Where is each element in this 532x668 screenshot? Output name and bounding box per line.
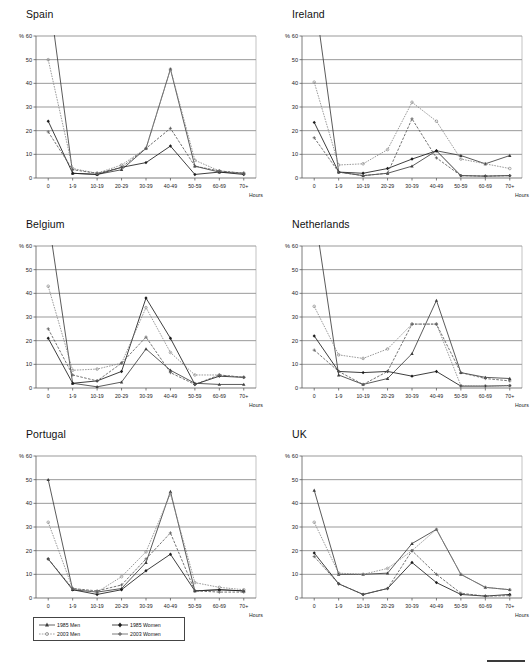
svg-text:50: 50 [26,57,32,63]
svg-text:70+: 70+ [505,393,514,399]
svg-text:0: 0 [47,183,50,189]
svg-text:20-29: 20-29 [381,603,394,609]
svg-text:70+: 70+ [505,183,514,189]
svg-text:10-19: 10-19 [356,393,369,399]
svg-text:Hours: Hours [249,612,263,618]
svg-text:%: % [285,243,290,249]
svg-text:0: 0 [29,385,32,391]
plot-area: 010203040506001-910-1920-2930-3940-4950-… [0,0,266,210]
svg-text:10: 10 [26,571,32,577]
svg-text:60-69: 60-69 [213,393,226,399]
footer-rule [487,660,525,662]
svg-text:50: 50 [292,267,298,273]
legend-marker-circle-icon [39,631,55,637]
svg-text:%: % [19,33,24,39]
svg-text:40-49: 40-49 [430,393,443,399]
svg-text:1-9: 1-9 [335,603,343,609]
svg-text:1-9: 1-9 [69,603,77,609]
svg-text:%: % [285,453,290,459]
svg-text:0: 0 [295,595,298,601]
svg-text:10: 10 [292,571,298,577]
svg-text:0: 0 [295,175,298,181]
svg-text:60: 60 [292,33,298,39]
svg-text:60: 60 [26,243,32,249]
svg-text:10: 10 [292,151,298,157]
legend-label-2003-men: 2003 Men [57,631,80,637]
series-markers [313,81,511,170]
plot-area: 010203040506001-910-1920-2930-3940-4950-… [0,420,266,630]
svg-text:20-29: 20-29 [381,393,394,399]
series-markers [47,58,245,174]
svg-text:40: 40 [292,290,298,296]
svg-text:30-39: 30-39 [139,603,152,609]
svg-text:40-49: 40-49 [430,183,443,189]
svg-text:20-29: 20-29 [381,183,394,189]
plot-area: 010203040506001-910-1920-2930-3940-4950-… [266,0,532,210]
chart-panel-portugal: Portugal010203040506001-910-1920-2930-39… [0,420,266,630]
series-markers [47,478,246,594]
svg-text:50-59: 50-59 [454,393,467,399]
svg-text:50: 50 [292,57,298,63]
legend-item-1985-men: 1985 Men [39,622,80,628]
svg-text:1-9: 1-9 [69,183,77,189]
svg-text:40: 40 [292,500,298,506]
svg-text:1-9: 1-9 [335,393,343,399]
svg-text:40-49: 40-49 [430,603,443,609]
svg-text:40-49: 40-49 [164,183,177,189]
svg-text:Hours: Hours [515,612,529,618]
legend-item-2003-men: 2003 Men [39,631,80,637]
svg-text:50-59: 50-59 [454,603,467,609]
svg-text:20: 20 [26,128,32,134]
series-markers [47,493,245,594]
series-markers [313,121,512,178]
svg-text:30: 30 [26,104,32,110]
series-line [314,522,510,589]
svg-text:60-69: 60-69 [479,183,492,189]
svg-text:50-59: 50-59 [188,183,201,189]
series-line [314,490,510,589]
series-markers [313,117,512,177]
svg-text:30-39: 30-39 [139,393,152,399]
svg-text:20: 20 [292,338,298,344]
svg-text:10: 10 [26,361,32,367]
svg-text:60-69: 60-69 [213,183,226,189]
series-line [48,60,244,174]
svg-text:30-39: 30-39 [405,183,418,189]
svg-text:60-69: 60-69 [479,603,492,609]
svg-text:70+: 70+ [505,603,514,609]
legend-marker-triangle-icon [39,622,55,628]
svg-text:20-29: 20-29 [115,603,128,609]
svg-text:40: 40 [26,500,32,506]
svg-text:70+: 70+ [239,603,248,609]
svg-text:0: 0 [313,603,316,609]
series-line [48,494,244,592]
series-markers [47,127,246,175]
svg-text:30: 30 [26,314,32,320]
svg-text:30: 30 [292,524,298,530]
svg-text:60: 60 [26,33,32,39]
series-line [314,211,510,385]
svg-text:10: 10 [26,151,32,157]
series-line [314,336,510,386]
svg-text:20: 20 [292,128,298,134]
svg-text:60: 60 [292,453,298,459]
svg-text:40-49: 40-49 [164,393,177,399]
series-line [314,82,510,168]
svg-text:Hours: Hours [249,402,263,408]
svg-text:%: % [285,33,290,39]
svg-text:50: 50 [26,267,32,273]
legend-label-1985-women: 1985 Women [130,622,161,628]
svg-text:0: 0 [313,393,316,399]
svg-text:30: 30 [26,524,32,530]
svg-text:10: 10 [292,361,298,367]
chart-panel-uk: UK010203040506001-910-1920-2930-3940-495… [266,420,532,630]
svg-text:0: 0 [47,393,50,399]
series-legend: 1985 Men 1985 Women 2003 Men [33,617,185,641]
chart-panel-spain: Spain010203040506001-910-1920-2930-3940-… [0,0,266,210]
svg-text:10-19: 10-19 [356,183,369,189]
svg-text:10-19: 10-19 [90,183,103,189]
svg-text:20: 20 [292,548,298,554]
svg-text:Hours: Hours [515,402,529,408]
legend-marker-cross-icon [112,631,128,637]
svg-text:60: 60 [292,243,298,249]
